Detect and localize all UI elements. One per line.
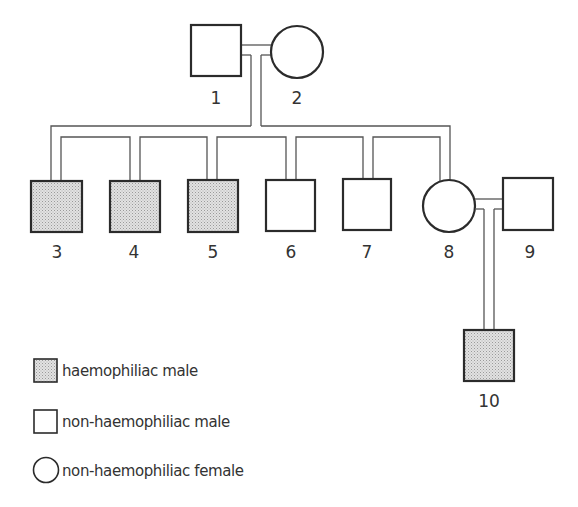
legend-label: haemophiliac male: [62, 362, 198, 380]
individual-label: 9: [525, 242, 536, 262]
legend-label: non-haemophiliac male: [62, 413, 230, 431]
legend-item-haemophiliac-male: haemophiliac male: [34, 359, 198, 382]
individual-8[interactable]: 8: [423, 180, 475, 262]
male-symbol-affected: [31, 181, 82, 232]
male-symbol-affected: [188, 180, 238, 232]
female-symbol: [271, 26, 323, 78]
individual-2[interactable]: 2: [271, 26, 323, 108]
individual-label: 3: [52, 242, 63, 262]
individual-label: 2: [292, 88, 303, 108]
male-symbol-affected: [110, 181, 160, 232]
individual-label: 8: [444, 242, 455, 262]
female-symbol: [423, 180, 475, 232]
descent-line-1-2: [251, 55, 261, 126]
mating-line-8-9: [475, 199, 503, 209]
pedigree-diagram: 1 2 3 4 5 6: [0, 0, 578, 507]
individual-label: 4: [129, 242, 140, 262]
generation-1: 1 2: [191, 25, 323, 126]
legend-item-non-haemophiliac-male: non-haemophiliac male: [34, 410, 230, 433]
sibship-line-gen2: [51, 126, 450, 182]
generation-3: 10: [464, 330, 514, 411]
individual-7[interactable]: 7: [343, 179, 391, 262]
male-symbol: [266, 180, 315, 231]
open-circle-icon: [34, 458, 59, 483]
male-symbol: [343, 179, 391, 230]
open-square-icon: [34, 410, 57, 433]
individual-6[interactable]: 6: [266, 180, 315, 262]
mating-line-1-2: [241, 45, 271, 55]
individual-3[interactable]: 3: [31, 181, 82, 262]
shaded-square-icon: [34, 359, 57, 382]
generation-2: 3 4 5 6 7 8: [31, 178, 553, 330]
individual-label: 7: [362, 242, 373, 262]
individual-label: 6: [286, 242, 297, 262]
legend-item-non-haemophiliac-female: non-haemophiliac female: [34, 458, 244, 483]
legend: haemophiliac male non-haemophiliac male …: [34, 359, 244, 483]
descent-line-8-9: [484, 209, 494, 330]
male-symbol-affected: [464, 330, 514, 381]
male-symbol: [503, 178, 553, 230]
individual-label: 5: [208, 242, 219, 262]
male-symbol: [191, 25, 241, 76]
individual-5[interactable]: 5: [188, 180, 238, 262]
individual-9[interactable]: 9: [503, 178, 553, 262]
individual-4[interactable]: 4: [110, 181, 160, 262]
individual-1[interactable]: 1: [191, 25, 241, 108]
individual-label: 1: [211, 88, 222, 108]
individual-label: 10: [478, 391, 500, 411]
legend-label: non-haemophiliac female: [62, 462, 244, 480]
individual-10[interactable]: 10: [464, 330, 514, 411]
